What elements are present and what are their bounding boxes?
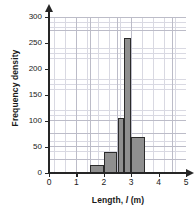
x-axis-title-prefix: Length,	[92, 195, 126, 205]
y-axis-tick	[45, 43, 49, 44]
x-axis-tick-label: 3	[123, 178, 139, 187]
histogram-bar	[118, 118, 125, 173]
y-axis-arrow-icon	[45, 4, 53, 12]
y-axis-tick-label: 200	[18, 65, 42, 73]
x-axis-tick-label: 2	[96, 178, 112, 187]
y-axis-tick	[45, 69, 49, 70]
x-axis-tick-label: 5	[178, 178, 194, 187]
y-axis-tick	[45, 121, 49, 122]
plot-area	[49, 17, 186, 173]
x-axis-arrow-icon	[186, 169, 194, 177]
y-axis-tick	[45, 147, 49, 148]
y-axis-tick-label: 250	[18, 39, 42, 47]
y-axis-tick-label: 0	[18, 169, 42, 177]
x-axis-tick-label: 4	[151, 178, 167, 187]
y-axis-title: Frequency density	[10, 33, 20, 143]
y-axis-tick	[45, 95, 49, 96]
y-axis-tick	[45, 17, 49, 18]
x-axis-title-suffix: (m)	[128, 195, 144, 205]
y-axis-tick-label: 300	[18, 13, 42, 21]
y-axis-line	[48, 11, 50, 174]
x-axis-title: Length, l (m)	[48, 195, 188, 205]
bar-series	[49, 17, 186, 173]
x-axis-tick-label: 1	[68, 178, 84, 187]
histogram-bar	[131, 137, 145, 173]
y-axis-tick-label: 150	[18, 91, 42, 99]
x-axis-tick-label: 0	[41, 178, 57, 187]
x-axis-line	[48, 172, 189, 174]
histogram-bar	[124, 38, 131, 173]
y-axis-tick-label: 100	[18, 117, 42, 125]
histogram-bar	[104, 152, 118, 173]
histogram-chart: 050100150200250300 012345 Frequency dens…	[0, 0, 195, 212]
y-axis-tick-label: 50	[18, 143, 42, 151]
